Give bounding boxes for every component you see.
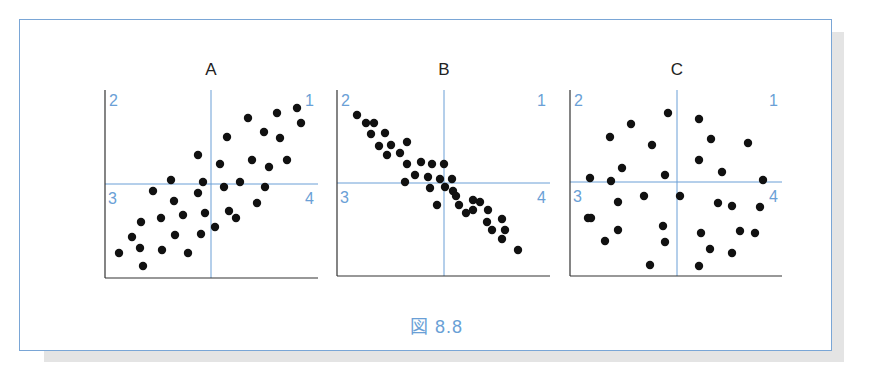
data-point: [706, 245, 714, 253]
data-point: [695, 115, 703, 123]
data-point: [661, 238, 669, 246]
data-point: [646, 261, 654, 269]
plot-a-quadrant-4-label: 4: [305, 190, 314, 207]
data-point: [403, 138, 411, 146]
data-point: [115, 249, 123, 257]
plot-b-quadrant-4-label: 4: [537, 189, 546, 206]
data-point: [469, 206, 477, 214]
data-point: [260, 128, 268, 136]
plot-b-quadrant-1-label: 1: [537, 92, 546, 109]
data-point: [501, 226, 509, 234]
data-point: [695, 156, 703, 164]
data-point: [756, 203, 764, 211]
data-point: [297, 119, 305, 127]
data-point: [220, 183, 228, 191]
plot-c-quadrant-2-label: 2: [574, 92, 583, 109]
data-point: [664, 109, 672, 117]
data-point: [157, 214, 165, 222]
data-point: [618, 164, 626, 172]
data-point: [448, 175, 456, 183]
data-point: [640, 192, 648, 200]
data-point: [128, 233, 136, 241]
data-point: [483, 218, 491, 226]
data-point: [216, 160, 224, 168]
data-point: [236, 178, 244, 186]
plot-a-quadrant-2-label: 2: [109, 92, 118, 109]
data-point: [718, 168, 726, 176]
data-point: [714, 199, 722, 207]
data-point: [697, 229, 705, 237]
data-point: [659, 222, 667, 230]
plot-a-quadrant-1-label: 1: [305, 92, 314, 109]
data-point: [265, 163, 273, 171]
data-point: [139, 262, 147, 270]
data-point: [440, 160, 448, 168]
data-point: [676, 192, 684, 200]
data-point: [223, 133, 231, 141]
data-point: [436, 175, 444, 183]
data-point: [383, 151, 391, 159]
data-point: [283, 156, 291, 164]
data-point: [498, 235, 506, 243]
data-point: [514, 246, 522, 254]
data-point: [276, 134, 284, 142]
data-point: [253, 199, 261, 207]
data-point: [433, 201, 441, 209]
data-point: [452, 192, 460, 200]
data-point: [695, 262, 703, 270]
data-point: [225, 207, 233, 215]
data-point: [136, 244, 144, 252]
plot-b-quadrant-3-label: 3: [340, 189, 349, 206]
data-point: [707, 135, 715, 143]
data-point: [403, 160, 411, 168]
data-point: [201, 209, 209, 217]
data-point: [149, 187, 157, 195]
data-point: [744, 139, 752, 147]
data-point: [232, 214, 240, 222]
data-point: [381, 129, 389, 137]
data-point: [587, 214, 595, 222]
plot-c-quadrant-4-label: 4: [769, 188, 778, 205]
data-point: [211, 223, 219, 231]
data-point: [424, 173, 432, 181]
data-point: [484, 206, 492, 214]
data-point: [375, 142, 383, 150]
data-point: [476, 198, 484, 206]
data-point: [248, 156, 256, 164]
data-point: [273, 109, 281, 117]
data-point: [387, 141, 395, 149]
data-point: [607, 177, 615, 185]
data-point: [370, 119, 378, 127]
data-point: [759, 176, 767, 184]
data-point: [751, 229, 759, 237]
data-point: [648, 141, 656, 149]
data-point: [614, 226, 622, 234]
plot-c-quadrant-3-label: 3: [573, 188, 582, 205]
figure-caption: 図 8.8: [410, 312, 463, 338]
data-point: [396, 149, 404, 157]
data-point: [194, 151, 202, 159]
data-point: [293, 104, 301, 112]
data-point: [728, 249, 736, 257]
data-point: [411, 171, 419, 179]
data-point: [728, 202, 736, 210]
data-point: [167, 176, 175, 184]
data-point: [614, 198, 622, 206]
data-point: [627, 120, 635, 128]
data-point: [261, 183, 269, 191]
data-point: [179, 211, 187, 219]
data-point: [455, 201, 463, 209]
data-point: [197, 230, 205, 238]
data-point: [170, 197, 178, 205]
data-point: [736, 227, 744, 235]
data-point: [171, 231, 179, 239]
data-point: [606, 133, 614, 141]
plot-a-quadrant-3-label: 3: [108, 190, 117, 207]
data-point: [441, 183, 449, 191]
data-point: [488, 226, 496, 234]
data-point: [426, 184, 434, 192]
data-point: [194, 189, 202, 197]
data-point: [367, 130, 375, 138]
plot-c-quadrant-1-label: 1: [769, 92, 778, 109]
plot-b-quadrant-2-label: 2: [341, 92, 350, 109]
